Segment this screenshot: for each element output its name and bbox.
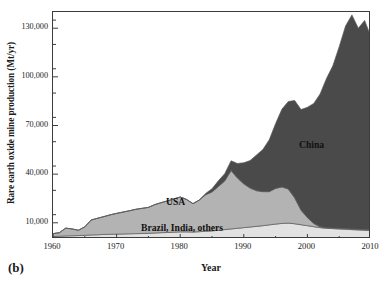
x-tick-label: 1970 [96,241,136,251]
chart-figure: Rare earth oxide mine production (Mt/yr)… [0,0,384,287]
x-tick-label: 2010 [350,241,384,251]
y-tick-marks [53,20,58,223]
x-tick-label: 2000 [286,241,326,251]
y-tick-label: 70,000 [2,120,48,129]
plot-area [52,11,370,238]
y-tick-label: 10,000 [2,217,48,226]
series-label-china: China [299,139,324,150]
y-tick-label: 130,000 [2,22,48,31]
series-label-brazil: Brazil, India, others [141,222,223,233]
x-axis-title: Year [52,262,370,273]
x-tick-label: 1960 [32,241,72,251]
y-tick-label: 40,000 [2,168,48,177]
series-label-usa: USA [166,196,185,207]
panel-letter: (b) [8,260,24,276]
y-tick-label: 100,000 [2,71,48,80]
x-tick-label: 1980 [159,241,199,251]
stacked-area-plot [53,12,370,238]
x-tick-label: 1990 [223,241,263,251]
area-series-group [53,15,370,238]
